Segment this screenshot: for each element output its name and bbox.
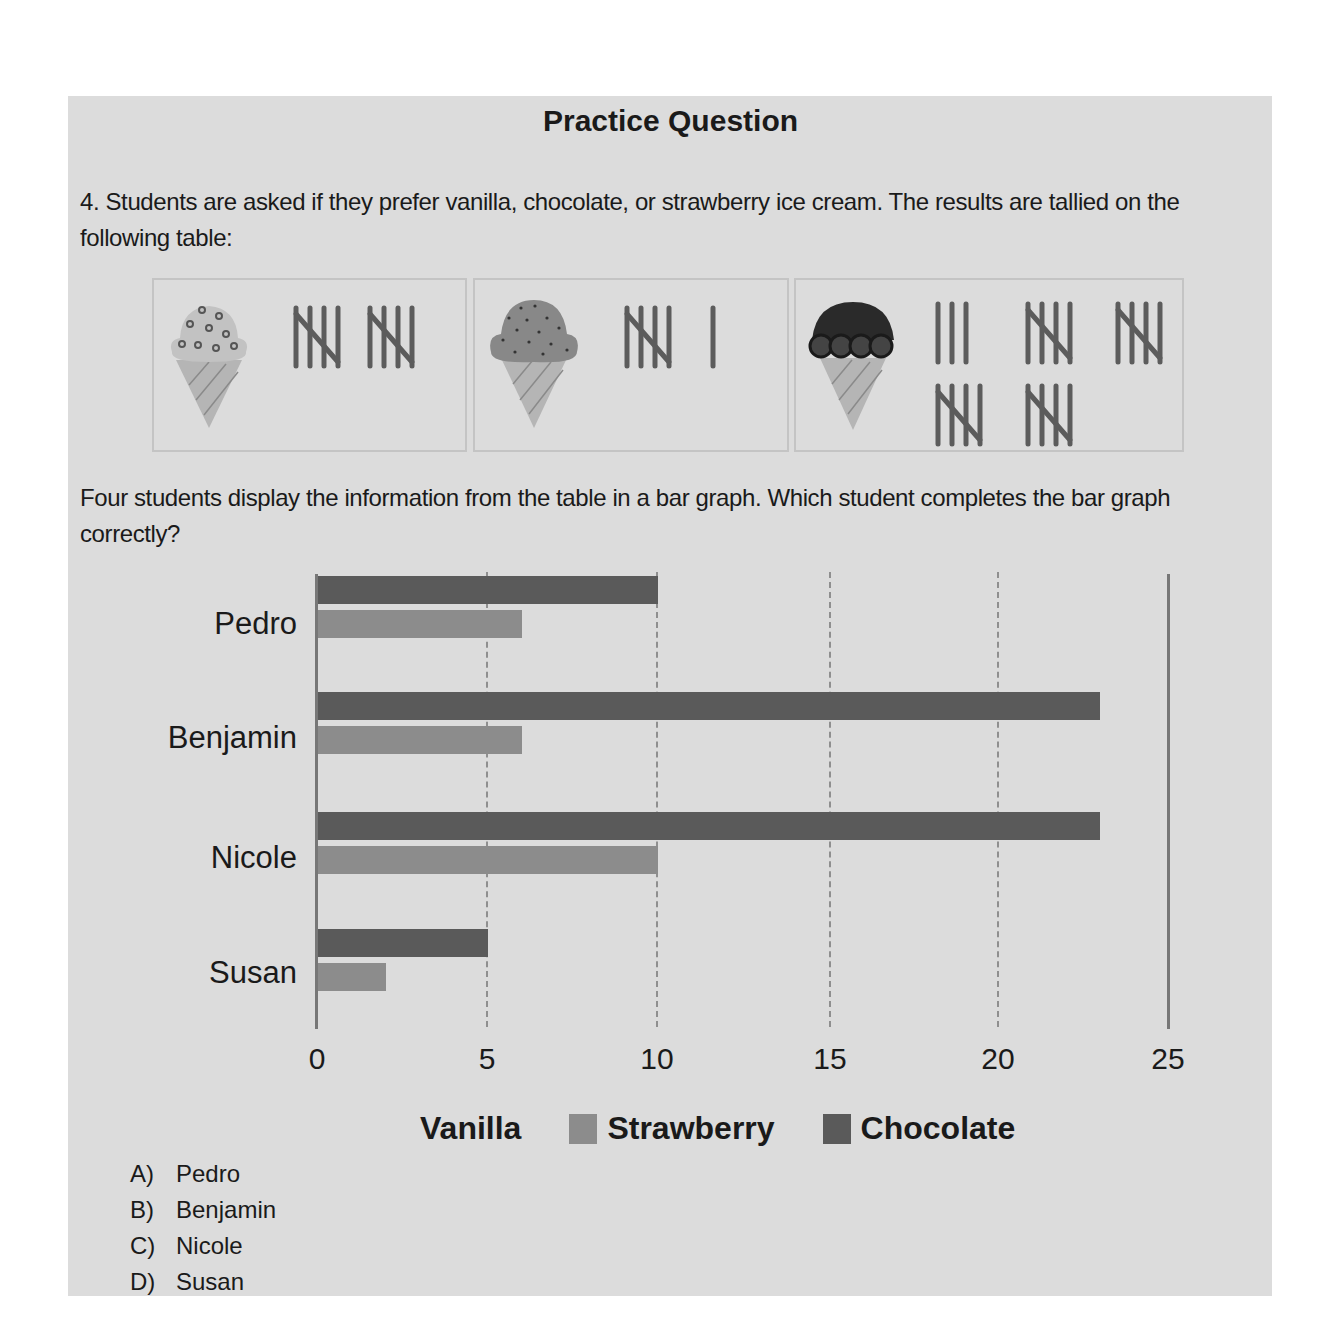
choice-b[interactable]: B)Benjamin xyxy=(130,1192,276,1228)
gridline-15 xyxy=(829,572,831,1027)
y-label-susan: Susan xyxy=(209,955,297,991)
tally-cell-chocolate xyxy=(794,278,1184,452)
gridline-20 xyxy=(997,572,999,1027)
page-title: Practice Question xyxy=(0,104,1341,138)
question-number: 4. xyxy=(80,188,99,215)
bar-benjamin-chocolate xyxy=(318,692,1100,720)
x-tick-20: 20 xyxy=(981,1042,1014,1076)
x-tick-15: 15 xyxy=(813,1042,846,1076)
x-tick-0: 0 xyxy=(309,1042,326,1076)
bar-susan-strawberry xyxy=(318,963,386,991)
bar-pedro-strawberry xyxy=(318,610,522,638)
chart-legend: Vanilla Strawberry Chocolate xyxy=(420,1110,1015,1147)
y-label-pedro: Pedro xyxy=(214,606,297,642)
tally-marks-23 xyxy=(932,300,1172,450)
question-body: Students are asked if they prefer vanill… xyxy=(80,188,1179,251)
strawberry-ice-cream-cone-icon xyxy=(487,296,581,430)
question-prompt: Four students display the information fr… xyxy=(80,480,1260,552)
bar-nicole-strawberry xyxy=(318,846,658,874)
y-label-nicole: Nicole xyxy=(211,840,297,876)
bar-susan-chocolate xyxy=(318,929,488,957)
bar-benjamin-strawberry xyxy=(318,726,522,754)
gridline-10 xyxy=(656,572,658,1027)
legend-label-chocolate: Chocolate xyxy=(861,1110,1016,1147)
tally-marks-10 xyxy=(292,304,452,374)
choice-a[interactable]: A)Pedro xyxy=(130,1156,276,1192)
legend-swatch-chocolate xyxy=(823,1114,851,1144)
question-text: 4. Students are asked if they prefer van… xyxy=(80,184,1260,256)
tally-cell-strawberry xyxy=(473,278,789,452)
y-label-benjamin: Benjamin xyxy=(168,720,297,756)
legend-label-strawberry: Strawberry xyxy=(607,1110,774,1147)
tally-marks-6 xyxy=(623,304,733,374)
tally-cell-vanilla xyxy=(152,278,467,452)
choice-d[interactable]: D)Susan xyxy=(130,1264,276,1300)
x-tick-10: 10 xyxy=(640,1042,673,1076)
bar-pedro-chocolate xyxy=(318,576,658,604)
vanilla-ice-cream-cone-icon xyxy=(164,300,254,430)
answer-choices: A)Pedro B)Benjamin C)Nicole D)Susan xyxy=(130,1156,276,1300)
legend-label-vanilla: Vanilla xyxy=(420,1110,521,1147)
legend-swatch-strawberry xyxy=(569,1114,597,1144)
x-tick-25: 25 xyxy=(1151,1042,1184,1076)
bar-nicole-chocolate xyxy=(318,812,1100,840)
x-tick-5: 5 xyxy=(479,1042,496,1076)
gridline-5 xyxy=(486,572,488,1027)
choice-c[interactable]: C)Nicole xyxy=(130,1228,276,1264)
y-axis xyxy=(315,574,318,1029)
chocolate-ice-cream-cone-icon xyxy=(806,300,898,432)
axis-line-25 xyxy=(1167,574,1170,1029)
